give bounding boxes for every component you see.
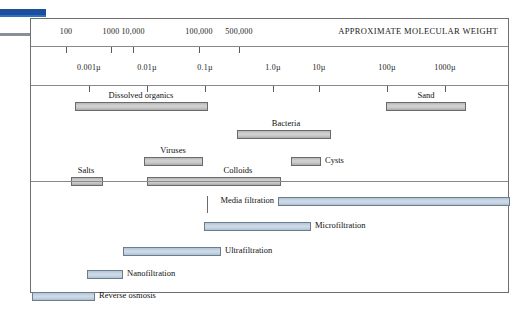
micron-tick-label: 0.001µ <box>77 63 101 72</box>
mw-tick-label: 100 <box>60 27 73 36</box>
filtration-bar <box>87 270 123 279</box>
mw-tick-label: 500,000 <box>225 27 252 36</box>
particle-bar-label: Viruses <box>160 145 185 155</box>
micron-tick-label: 1.0µ <box>265 63 280 72</box>
micron-tick-label: 100µ <box>378 63 395 72</box>
filtration-bar-label: Ultrafiltration <box>225 245 272 255</box>
mw-tick-label: 10,000 <box>121 27 144 36</box>
filtration-bar <box>204 222 311 231</box>
mw-tick-label: 1000 <box>103 27 120 36</box>
particle-bar-label: Cysts <box>325 155 344 165</box>
chart-title: APPROXIMATE MOLECULAR WEIGHT <box>338 26 498 36</box>
page-edge-blue-rule <box>0 15 46 17</box>
micron-tick-label: 0.01µ <box>137 63 157 72</box>
filtration-bar <box>278 197 510 206</box>
filtration-section: Media filtrationMicrofiltrationUltrafilt… <box>31 182 508 292</box>
particle-bar-label: Dissolved organics <box>109 90 174 100</box>
particle-size-scale: 0.001µ0.01µ0.1µ1.0µ10µ100µ1000µ <box>31 46 508 85</box>
filtration-bar-label: Media filtration <box>220 195 274 205</box>
filtration-bar <box>32 292 95 301</box>
particle-bar <box>75 102 208 111</box>
particle-bar-label: Colloids <box>224 165 253 175</box>
particle-bar-label: Bacteria <box>272 118 300 128</box>
micron-tick-label: 1000µ <box>434 63 456 72</box>
particles-section: Dissolved organicsSandBacteriaVirusesCys… <box>31 85 508 181</box>
filtration-bar-label: Reverse osmosis <box>99 290 156 300</box>
micron-tick-label: 10µ <box>312 63 325 72</box>
particle-bar-label: Salts <box>78 165 95 175</box>
particle-bar <box>144 157 203 166</box>
mw-tick-label: 100,000 <box>185 27 212 36</box>
particle-bar <box>386 102 466 111</box>
filtration-bar-label: Microfiltration <box>315 220 366 230</box>
particle-bar-label: Sand <box>418 90 435 100</box>
particle-bar <box>291 157 321 166</box>
micron-tick-label: 0.1µ <box>197 63 212 72</box>
particle-size-chart: APPROXIMATE MOLECULAR WEIGHT 100100010,0… <box>30 18 509 293</box>
molecular-weight-scale: APPROXIMATE MOLECULAR WEIGHT 100100010,0… <box>31 19 508 46</box>
filtration-bar <box>123 247 221 256</box>
particle-bar <box>237 130 331 139</box>
filtration-bar-connector <box>207 196 208 213</box>
filtration-bar-label: Nanofiltration <box>127 268 175 278</box>
